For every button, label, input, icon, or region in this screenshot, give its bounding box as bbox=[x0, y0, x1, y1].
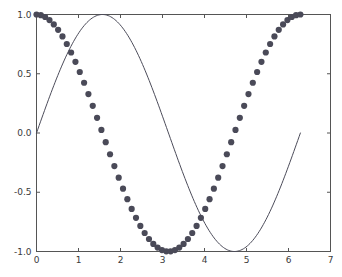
cos-marker-dot bbox=[94, 115, 100, 121]
cos-marker-dot bbox=[237, 115, 243, 121]
cos-marker-dot bbox=[193, 223, 199, 229]
cos-marker-dot bbox=[232, 127, 238, 133]
figure-background bbox=[0, 0, 342, 277]
cos-marker-dot bbox=[211, 186, 217, 192]
cos-marker-dot bbox=[254, 69, 260, 75]
x-tick-label: 4 bbox=[202, 255, 208, 265]
y-tick-label: 0.5 bbox=[17, 69, 31, 79]
cos-marker-dot bbox=[142, 230, 148, 236]
cos-marker-dot bbox=[133, 215, 139, 221]
cos-marker-dot bbox=[206, 196, 212, 202]
cos-marker-dot bbox=[59, 33, 65, 39]
cos-marker-dot bbox=[111, 163, 117, 169]
cos-marker-dot bbox=[51, 21, 57, 27]
cos-marker-dot bbox=[180, 241, 186, 247]
x-tick-label: 2 bbox=[118, 255, 124, 265]
y-tick-label: -1.0 bbox=[14, 247, 32, 257]
x-tick-label: 7 bbox=[328, 255, 334, 265]
x-tick-label: 0 bbox=[34, 255, 40, 265]
cos-marker-dot bbox=[276, 27, 282, 33]
cos-marker-dot bbox=[228, 139, 234, 145]
cos-marker-dot bbox=[258, 59, 264, 65]
x-tick-label: 6 bbox=[286, 255, 292, 265]
cos-marker-dot bbox=[202, 206, 208, 212]
x-tick-label: 5 bbox=[244, 255, 250, 265]
cos-marker-dot bbox=[185, 236, 191, 242]
plot-canvas: 01234567 -1.0-0.50.00.51.0 bbox=[0, 0, 342, 277]
cos-marker-dot bbox=[219, 163, 225, 169]
x-tick-label: 1 bbox=[76, 255, 82, 265]
cos-marker-dot bbox=[81, 80, 87, 86]
cos-marker-dot bbox=[241, 103, 247, 109]
cos-marker-dot bbox=[198, 215, 204, 221]
cos-marker-dot bbox=[85, 91, 91, 97]
cos-marker-dot bbox=[250, 80, 256, 86]
y-tick-label: 1.0 bbox=[17, 10, 32, 20]
cos-marker-dot bbox=[116, 175, 122, 181]
cos-marker-dot bbox=[107, 151, 113, 157]
cos-marker-dot bbox=[124, 196, 130, 202]
cos-marker-dot bbox=[271, 33, 277, 39]
x-tick-label: 3 bbox=[160, 255, 166, 265]
cos-marker-dot bbox=[103, 139, 109, 145]
cos-marker-dot bbox=[77, 69, 83, 75]
cos-marker-dot bbox=[263, 49, 269, 55]
y-tick-label: 0.0 bbox=[17, 128, 32, 138]
cos-marker-dot bbox=[98, 127, 104, 133]
cos-marker-dot bbox=[90, 103, 96, 109]
cos-marker-dot bbox=[146, 236, 152, 242]
cos-marker-dot bbox=[68, 49, 74, 55]
y-tick-label: -0.5 bbox=[14, 187, 32, 197]
cos-marker-dot bbox=[129, 206, 135, 212]
matplotlib-figure: 01234567 -1.0-0.50.00.51.0 bbox=[0, 0, 342, 277]
cos-marker-dot bbox=[120, 186, 126, 192]
cos-marker-dot bbox=[64, 41, 70, 47]
cos-marker-dot bbox=[224, 151, 230, 157]
cos-marker-dot bbox=[297, 11, 303, 17]
cos-marker-dot bbox=[137, 223, 143, 229]
cos-marker-dot bbox=[189, 230, 195, 236]
cos-marker-dot bbox=[245, 91, 251, 97]
cos-marker-dot bbox=[267, 41, 273, 47]
cos-marker-dot bbox=[72, 59, 78, 65]
cos-marker-dot bbox=[215, 175, 221, 181]
cos-marker-dot bbox=[55, 27, 61, 33]
